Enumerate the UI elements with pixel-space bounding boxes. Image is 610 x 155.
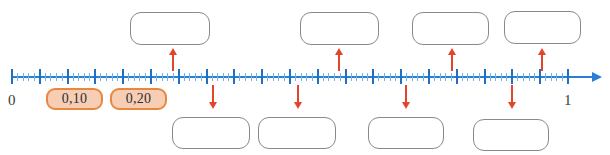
axis-tick-minor [551,73,552,81]
axis-tick-major [261,69,263,84]
pointer-up-2 [334,48,343,71]
pointer-down-2 [293,85,302,109]
pointer-up-3 [447,48,456,71]
answer-box-top-4[interactable] [504,11,581,44]
axis-tick-minor [473,73,474,81]
axis-tick-minor [506,73,507,81]
axis-tick-major [289,69,291,84]
answer-box-top-2[interactable] [300,12,379,45]
axis-label-start: 0 [8,93,16,108]
axis-tick-minor [517,73,518,81]
axis-tick-major [67,69,69,84]
axis-tick-minor [245,73,246,81]
axis-tick-minor [256,73,257,81]
axis-tick-minor [223,73,224,81]
axis-tick-minor [239,73,240,81]
axis-tick-major [567,69,569,84]
axis-tick-major [428,69,430,84]
axis-tick-minor [406,73,407,81]
axis-tick-major [178,69,180,84]
axis-tick-minor [328,73,329,81]
given-value-pill-2: 0,20 [110,88,167,110]
axis-tick-minor [295,73,296,81]
axis-tick-minor [73,73,74,81]
axis-tick-minor [273,73,274,81]
answer-box-top-3[interactable] [412,12,489,45]
axis-tick-minor [62,73,63,81]
axis-tick-minor [145,73,146,81]
axis-tick-major [11,69,13,84]
axis-tick-minor [384,73,385,81]
axis-tick-minor [28,73,29,81]
axis-tick-minor [351,73,352,81]
axis-tick-minor [201,73,202,81]
axis-tick-minor [312,73,313,81]
pointer-down-1 [208,85,217,109]
axis-tick-minor [395,73,396,81]
axis-tick-minor [340,73,341,81]
answer-box-bottom-4[interactable] [473,119,549,151]
axis-tick-minor [423,73,424,81]
pointer-down-4 [507,85,516,109]
axis-tick-minor [167,73,168,81]
axis-tick-minor [34,73,35,81]
axis-tick-minor [278,73,279,81]
axis-tick-major [400,69,402,84]
axis-tick-minor [529,73,530,81]
axis-tick-minor [562,73,563,81]
axis-tick-major [345,69,347,84]
axis-tick-minor [134,73,135,81]
axis-tick-minor [128,73,129,81]
axis-tick-minor [217,73,218,81]
axis-tick-minor [78,73,79,81]
axis-tick-major [206,69,208,84]
axis-tick-minor [523,73,524,81]
axis-tick-minor [56,73,57,81]
axis-tick-minor [412,73,413,81]
axis-tick-minor [434,73,435,81]
axis-tick-minor [490,73,491,81]
axis-tick-minor [378,73,379,81]
axis-tick-minor [184,73,185,81]
axis-tick-minor [534,73,535,81]
axis-tick-minor [356,73,357,81]
axis-tick-minor [284,73,285,81]
axis-tick-minor [89,73,90,81]
axis-tick-minor [545,73,546,81]
axis-tick-major [94,69,96,84]
answer-box-bottom-1[interactable] [172,117,250,149]
axis-tick-minor [117,73,118,81]
axis-tick-major [456,69,458,84]
axis-tick-minor [50,73,51,81]
axis-tick-minor [306,73,307,81]
axis-tick-minor [501,73,502,81]
answer-box-top-1[interactable] [130,12,210,45]
axis-tick-minor [195,73,196,81]
axis-tick-major [39,69,41,84]
axis-tick-minor [367,73,368,81]
answer-box-bottom-3[interactable] [368,117,444,149]
axis-tick-minor [417,73,418,81]
axis-tick-minor [173,73,174,81]
axis-tick-minor [479,73,480,81]
axis-tick-major [539,69,541,84]
axis-tick-minor [334,73,335,81]
axis-tick-minor [467,73,468,81]
axis-tick-major [484,69,486,84]
axis-tick-major [122,69,124,84]
axis-tick-minor [156,73,157,81]
axis-tick-minor [189,73,190,81]
axis-tick-major [233,69,235,84]
axis-label-end: 1 [564,93,572,108]
axis-tick-minor [323,73,324,81]
axis-tick-minor [301,73,302,81]
axis-tick-minor [100,73,101,81]
number-line-exercise: 0 1 0,10 0,20 [0,0,610,155]
axis-tick-minor [84,73,85,81]
answer-box-bottom-2[interactable] [258,117,336,149]
axis-tick-minor [390,73,391,81]
given-value-pill-1: 0,10 [46,88,103,110]
axis-tick-major [150,69,152,84]
axis-tick-minor [451,73,452,81]
axis-tick-minor [139,73,140,81]
